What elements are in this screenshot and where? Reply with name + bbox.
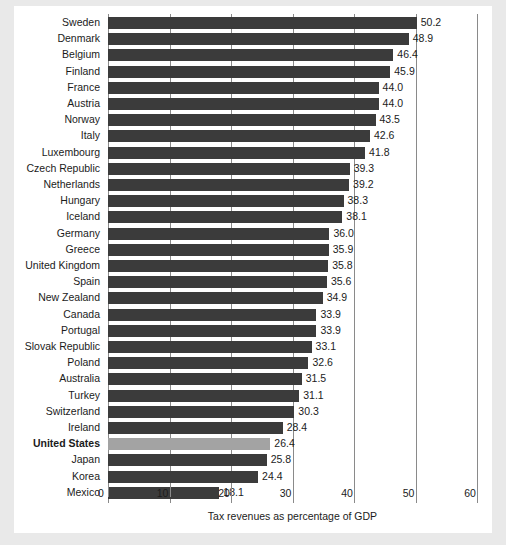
category-label: Mexico — [67, 486, 100, 499]
bar — [108, 438, 270, 450]
bar-value-label: 48.9 — [413, 32, 433, 45]
category-label: Denmark — [57, 32, 100, 45]
bar — [108, 471, 258, 483]
category-label: Slovak Republic — [25, 340, 100, 353]
bar-row: Korea24.4 — [0, 470, 506, 486]
bar-row: Japan25.8 — [0, 453, 506, 469]
bar-value-label: 24.4 — [262, 470, 282, 483]
bar — [108, 49, 393, 61]
category-label: Finland — [66, 65, 100, 78]
bar — [108, 98, 379, 110]
bar — [108, 211, 342, 223]
bar-row: Turkey31.1 — [0, 389, 506, 405]
chart-figure: Sweden50.2Denmark48.9Belgium46.4Finland4… — [0, 0, 506, 545]
bar-row: Germany36.0 — [0, 227, 506, 243]
bar — [108, 357, 308, 369]
bar — [108, 454, 267, 466]
chart-plot-area: Sweden50.2Denmark48.9Belgium46.4Finland4… — [0, 0, 506, 545]
x-tick-label: 30 — [280, 487, 292, 499]
bar — [108, 114, 376, 126]
category-label: Italy — [81, 129, 100, 142]
category-label: Korea — [72, 470, 100, 483]
bar-row: Mexico18.1 — [0, 486, 506, 502]
bar-row: Poland32.6 — [0, 356, 506, 372]
bar-row: Norway43.5 — [0, 113, 506, 129]
x-tick-label: 40 — [341, 487, 353, 499]
bar-row: Iceland38.1 — [0, 210, 506, 226]
category-label: Switzerland — [46, 405, 100, 418]
x-tick-label: 0 — [98, 487, 104, 499]
category-label: United Kingdom — [25, 259, 100, 272]
bar-row: Luxembourg41.8 — [0, 146, 506, 162]
bar-value-label: 38.1 — [346, 210, 366, 223]
bar-row: Czech Republic39.3 — [0, 162, 506, 178]
category-label: Portugal — [61, 324, 100, 337]
bar-value-label: 33.9 — [320, 324, 340, 337]
bar-row: Denmark48.9 — [0, 32, 506, 48]
x-axis-title: Tax revenues as percentage of GDP — [108, 510, 477, 522]
bar — [108, 390, 299, 402]
bar-value-label: 32.6 — [312, 356, 332, 369]
bar-row: United States26.4 — [0, 437, 506, 453]
bar-row: Austria44.0 — [0, 97, 506, 113]
category-label: Hungary — [60, 194, 100, 207]
x-tick-label: 20 — [218, 487, 230, 499]
bar-row: Belgium46.4 — [0, 48, 506, 64]
bar-value-label: 39.3 — [354, 162, 374, 175]
category-label: Spain — [73, 275, 100, 288]
category-label: Australia — [59, 372, 100, 385]
x-tick-label: 10 — [157, 487, 169, 499]
bar-value-label: 25.8 — [271, 453, 291, 466]
bar — [108, 195, 344, 207]
bar-row: Switzerland30.3 — [0, 405, 506, 421]
category-label: Norway — [64, 113, 100, 126]
category-label: Turkey — [68, 389, 100, 402]
category-label: Greece — [66, 243, 100, 256]
bar-value-label: 39.2 — [353, 178, 373, 191]
bar-value-label: 35.9 — [333, 243, 353, 256]
bar-value-label: 31.1 — [303, 389, 323, 402]
bar — [108, 179, 349, 191]
bar-value-label: 41.8 — [369, 146, 389, 159]
bar — [108, 244, 329, 256]
bar — [108, 228, 329, 240]
bar — [108, 147, 365, 159]
bar — [108, 163, 350, 175]
category-label: Czech Republic — [26, 162, 100, 175]
x-tick-label: 60 — [464, 487, 476, 499]
bar-value-label: 50.2 — [421, 16, 441, 29]
category-label: Netherlands — [43, 178, 100, 191]
bar-row: Netherlands39.2 — [0, 178, 506, 194]
bar — [108, 66, 390, 78]
bar — [108, 260, 328, 272]
tick-mark-50 — [416, 483, 417, 497]
bar — [108, 276, 327, 288]
category-label: Sweden — [62, 16, 100, 29]
tick-mark-40 — [354, 483, 355, 497]
bar-value-label: 35.6 — [331, 275, 351, 288]
category-label: France — [67, 81, 100, 94]
bar-row: Ireland28.4 — [0, 421, 506, 437]
bar — [108, 82, 379, 94]
category-label: Iceland — [66, 210, 100, 223]
bar — [108, 325, 316, 337]
bar-row: Spain35.6 — [0, 275, 506, 291]
bar-value-label: 42.6 — [374, 129, 394, 142]
tick-mark-20 — [231, 483, 232, 497]
category-label: United States — [33, 437, 100, 450]
bar-row: Hungary38.3 — [0, 194, 506, 210]
bar-row: Italy42.6 — [0, 129, 506, 145]
bar — [108, 422, 283, 434]
bar-value-label: 45.9 — [394, 65, 414, 78]
tick-mark-0 — [108, 483, 109, 497]
bar-value-label: 43.5 — [380, 113, 400, 126]
x-tick-label: 50 — [403, 487, 415, 499]
bar-value-label: 36.0 — [333, 227, 353, 240]
bar — [108, 406, 294, 418]
category-label: Japan — [71, 453, 100, 466]
bar-row: Australia31.5 — [0, 372, 506, 388]
tick-mark-60 — [477, 483, 478, 497]
bar — [108, 130, 370, 142]
category-label: Austria — [67, 97, 100, 110]
bar-value-label: 44.0 — [383, 97, 403, 110]
